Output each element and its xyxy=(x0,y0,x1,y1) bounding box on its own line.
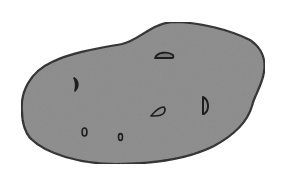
potato-illustration: Potato illustration xyxy=(0,0,282,182)
potato-eye-bottom-right xyxy=(119,134,123,141)
potato-body xyxy=(22,22,265,164)
potato-eye-bottom-left xyxy=(82,128,87,136)
potato-eye-right-d xyxy=(203,97,208,114)
potato-drawing xyxy=(0,0,282,182)
potato-eye-top xyxy=(155,53,173,58)
